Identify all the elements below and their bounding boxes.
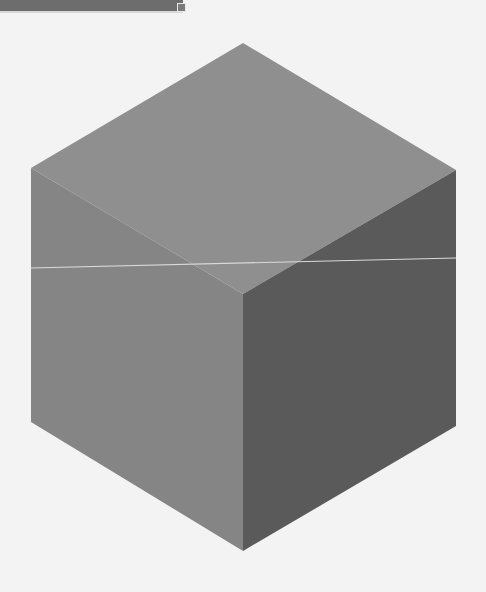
isometric-cube[interactable] — [0, 0, 486, 592]
drawing-canvas — [0, 0, 486, 592]
